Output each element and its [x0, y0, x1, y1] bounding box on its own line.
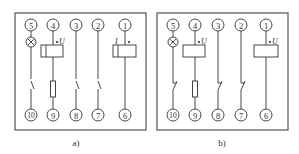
polarity-dot-icon	[128, 41, 130, 43]
diagram-a-column-4-9: 4 U 9	[41, 19, 66, 121]
polarity-dot-icon	[198, 41, 200, 43]
diagram-a: 5 10 4 U	[15, 13, 146, 148]
terminal-9-label: 9	[51, 111, 55, 121]
resistor-icon	[51, 81, 56, 97]
diagram-b-column-1-6: 1 U 6	[254, 19, 279, 121]
switch-contact-nc-icon	[241, 81, 245, 90]
resistor-icon	[193, 81, 198, 97]
terminal-6-label: 6	[123, 111, 127, 121]
lamp-icon	[26, 37, 36, 47]
terminal-8-label: 8	[74, 111, 78, 121]
switch-contact-nc-icon	[173, 81, 177, 90]
switch-contact-icon	[31, 81, 34, 89]
terminal-8-label: 8	[216, 111, 220, 121]
terminal-4-label: 4	[193, 21, 198, 31]
terminal-2-label: 2	[239, 21, 243, 31]
relay-coil-icon	[183, 45, 205, 57]
switch-contact-nc-icon	[218, 81, 222, 90]
terminal-10-label: 10	[169, 111, 177, 120]
terminal-3-label: 3	[74, 21, 78, 31]
diagram-a-column-2-7: 2 7	[92, 19, 104, 121]
terminal-6-label: 6	[264, 111, 268, 121]
diagram-a-column-1-6: 1 I 6	[113, 19, 136, 121]
coil-label-u: U	[201, 37, 208, 46]
terminal-1-label: 1	[264, 21, 268, 31]
diagram-a-column-3-8: 3 8	[70, 19, 82, 121]
polarity-dot-icon	[269, 41, 271, 43]
lamp-icon	[168, 37, 178, 47]
relay-wiring-diagrams: 5 10 4 U	[0, 0, 299, 154]
diagram-b-column-2-7: 2 7	[235, 19, 247, 121]
diagram-a-caption: a)	[73, 138, 80, 148]
polarity-dot-icon	[56, 41, 58, 43]
diagram-b: 5 10 4 U	[157, 13, 288, 148]
switch-contact-icon	[76, 81, 79, 89]
diagram-b-column-3-8: 3 8	[212, 19, 224, 121]
terminal-5-label: 5	[171, 21, 175, 31]
terminal-1-label: 1	[123, 21, 127, 31]
terminal-7-label: 7	[96, 111, 100, 121]
diagram-b-caption: b)	[218, 138, 226, 148]
terminal-4-label: 4	[51, 21, 56, 31]
relay-coil-icon	[254, 45, 278, 57]
relay-coil-icon	[113, 45, 136, 57]
diagram-b-column-4-9: 4 U 9	[183, 19, 208, 121]
diagram-b-column-5-10: 5 10	[167, 19, 179, 121]
terminal-9-label: 9	[193, 111, 197, 121]
terminal-10-label: 10	[27, 111, 35, 120]
terminal-2-label: 2	[96, 21, 100, 31]
relay-coil-icon	[41, 45, 63, 57]
terminal-3-label: 3	[216, 21, 220, 31]
terminal-7-label: 7	[239, 111, 243, 121]
terminal-5-label: 5	[29, 21, 33, 31]
coil-label-i: I	[114, 37, 118, 46]
diagram-a-column-5-10: 5 10	[25, 19, 37, 121]
coil-label-u: U	[59, 37, 66, 46]
switch-contact-icon	[98, 81, 101, 89]
